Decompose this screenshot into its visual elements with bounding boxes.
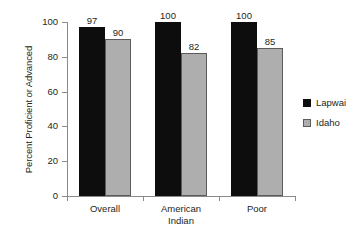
category-label-line: Poor	[219, 203, 295, 215]
category-label-line: Indian	[143, 215, 219, 227]
y-axis-tick-label: 80	[47, 51, 58, 62]
legend-swatch-icon	[303, 99, 311, 107]
legend-item-idaho: Idaho	[303, 117, 346, 128]
bar-lapwai-poor: 100	[231, 22, 257, 196]
category-label-line: Overall	[67, 203, 143, 215]
legend-label: Lapwai	[316, 97, 346, 108]
x-axis-tick	[67, 196, 68, 201]
y-axis-title: Percent Proficient or Advanced	[23, 20, 34, 200]
x-axis-category-label: AmericanIndian	[143, 203, 219, 227]
bar-chart: Percent Proficient or Advanced 020406080…	[0, 0, 354, 242]
chart-legend: LapwaiIdaho	[303, 97, 346, 137]
y-axis-tick-label: 100	[42, 16, 58, 27]
bar-value-label: 85	[265, 36, 276, 47]
y-axis-tick-label: 40	[47, 120, 58, 131]
bar-value-label: 100	[160, 10, 176, 21]
plot-area: 97901008210085	[67, 22, 295, 196]
bar-idaho-poor: 85	[257, 48, 283, 196]
y-axis-tick-label: 60	[47, 86, 58, 97]
bar-value-label: 97	[87, 15, 98, 26]
bar-value-label: 90	[113, 27, 124, 38]
y-axis-tick-label: 0	[53, 190, 58, 201]
x-axis-tick	[295, 196, 296, 201]
x-axis-line	[67, 196, 295, 197]
x-axis-tick	[219, 196, 220, 201]
legend-swatch-icon	[303, 119, 311, 127]
x-axis-category-label: Overall	[67, 203, 143, 215]
bar-idaho-american-indian: 82	[181, 53, 207, 196]
bar-idaho-overall: 90	[105, 39, 131, 196]
category-label-line: American	[143, 203, 219, 215]
bar-value-label: 100	[236, 10, 252, 21]
bar-lapwai-overall: 97	[79, 27, 105, 196]
legend-label: Idaho	[316, 117, 340, 128]
x-axis-category-label: Poor	[219, 203, 295, 215]
y-axis-tick-label: 20	[47, 155, 58, 166]
bar-lapwai-american-indian: 100	[155, 22, 181, 196]
x-axis-tick	[143, 196, 144, 201]
bar-value-label: 82	[189, 41, 200, 52]
legend-item-lapwai: Lapwai	[303, 97, 346, 108]
